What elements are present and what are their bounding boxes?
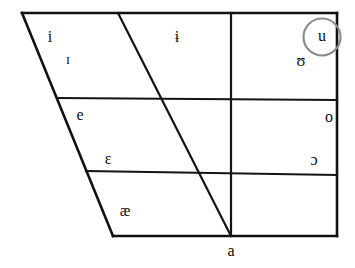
vowel-symbol-epsilon: ɛ (105, 150, 112, 167)
vowel-symbol-small-capital-i: ɪ (66, 52, 70, 67)
quadrilateral-left-edge (22, 13, 113, 236)
vowel-symbol-i: i (48, 28, 53, 45)
vowel-symbol-open-o: ɔ (310, 151, 317, 168)
vowel-symbol-upsilon: ʊ (297, 52, 306, 69)
vowel-chart-figure: i ɪ ɨ u ʊ e o ɛ ɔ æ a (0, 0, 355, 268)
height-divider-open-mid (86, 171, 337, 175)
vowel-symbol-e: e (76, 106, 83, 123)
vowel-symbol-o: o (325, 108, 333, 125)
vowel-quadrilateral-svg: i ɪ ɨ u ʊ e o ɛ ɔ æ a (0, 0, 355, 268)
vowel-symbol-u: u (318, 27, 326, 44)
height-divider-close-mid (57, 98, 337, 100)
vowel-symbol-barred-i: ɨ (175, 28, 180, 45)
vowel-symbol-ae-ligature: æ (120, 202, 131, 219)
backness-divider-front-central (118, 13, 231, 236)
vowel-symbol-a: a (227, 242, 234, 259)
